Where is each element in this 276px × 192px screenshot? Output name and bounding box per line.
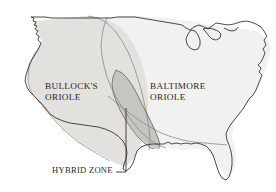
baltimore-oriole-label: BALTIMORE ORIOLE bbox=[150, 81, 206, 103]
range-map-graphic bbox=[0, 0, 276, 192]
bullocks-oriole-label: BULLOCK'S ORIOLE bbox=[45, 81, 98, 103]
hybrid-zone-label: HYBRID ZONE bbox=[52, 165, 113, 175]
oriole-range-map-figure: BULLOCK'S ORIOLE BALTIMORE ORIOLE HYBRID… bbox=[0, 0, 276, 192]
